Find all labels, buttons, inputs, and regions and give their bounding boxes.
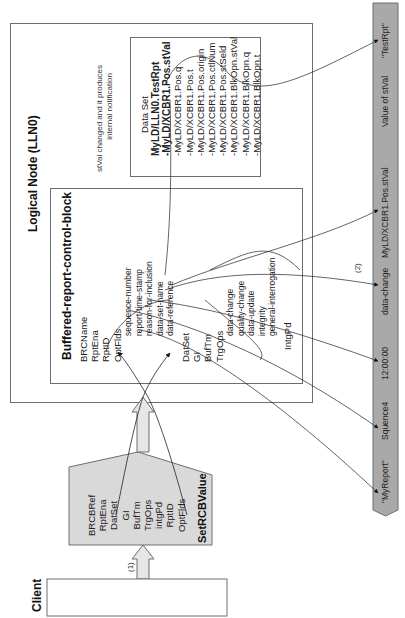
- logical-node-title: Logical Node (LLN0): [26, 115, 40, 232]
- brcb-field-trgops: TrgOps: [214, 331, 225, 362]
- brcb-field: RptID: [100, 317, 111, 362]
- trgops-item: data-update: [246, 258, 257, 336]
- data-set-member: -MyLD/XCBR1.Pos.stSeld: [217, 37, 228, 156]
- data-set-member: -MyLD/XCBR1.Pos.q: [172, 37, 183, 156]
- set-rcb-field: BRCBRef: [86, 495, 97, 536]
- trgops-items: data-change quality-change data-update i…: [225, 258, 278, 336]
- step-2-label: (2): [353, 263, 363, 273]
- data-set-member: -MyLD/XCBR1.BlkOpn.t: [251, 37, 262, 156]
- block-arrow-up-1: [132, 397, 154, 452]
- report-field-sequence: Squence4: [380, 402, 390, 440]
- optflds-item: data-set-name: [155, 261, 166, 336]
- trgops-item: quality-change: [236, 258, 247, 336]
- brcb-field: BufTm: [202, 331, 213, 362]
- brcb-fields: BRCName RptEna RptID OptFlds: [78, 317, 123, 362]
- data-set-member: -MyLD/XCBR1.BlkOpn.q: [240, 37, 251, 156]
- report-field-reason: data-change: [380, 268, 390, 315]
- report-field-timestamp: 12:00:00: [380, 347, 390, 380]
- set-rcb-field: RptEna: [97, 495, 108, 536]
- data-set-member: -MyLD/XCBR1.BlkOpn.stVal: [228, 37, 239, 156]
- set-rcb-field: TrgOps: [142, 495, 153, 536]
- step-1-label: (1): [126, 562, 136, 572]
- set-rcb-field: intgPd: [153, 495, 164, 536]
- client-box: [47, 579, 227, 616]
- brcb-field: GI: [191, 331, 202, 362]
- data-set-member: -MyLD/XCBR1.Pos.stVal: [161, 37, 172, 156]
- brcb-fields-mid: DatSet GI BufTm TrgOps: [180, 331, 225, 362]
- report-field-dataset-name: "TestRpt": [380, 23, 390, 58]
- data-set-title: Data Set: [139, 96, 150, 133]
- set-rcb-field: BufTm: [131, 495, 142, 536]
- brcb-field: DatSet: [180, 331, 191, 362]
- report-field-data-reference: MyLD/XCBR1.Pos.stVal: [380, 167, 390, 258]
- data-set-member: -MyLD/XCBR1.Pos.origin: [195, 37, 206, 156]
- notification-line-2: internal notification: [105, 65, 115, 172]
- report-field-value: Value of stVal: [380, 76, 390, 127]
- trgops-item: data-change: [225, 258, 236, 336]
- client-label: Client: [30, 579, 44, 612]
- brcb-field: BRCName: [78, 317, 89, 362]
- optflds-item: reason-for-inclusion: [144, 261, 155, 336]
- notification-line-1: stVal changed and it produces: [95, 65, 105, 172]
- trgops-item: integrity: [257, 258, 268, 336]
- notification-text: stVal changed and it produces internal n…: [95, 65, 115, 172]
- set-rcb-value-fields: BRCBRef RptEna DatSet GI BufTm TrgOps in…: [86, 495, 187, 536]
- brcb-field-optflds: OptFlds: [112, 317, 123, 362]
- optflds-item: report-time-stamp: [134, 261, 145, 336]
- optflds-items: sequence-number report-time-stamp reason…: [123, 261, 176, 336]
- optflds-item: sequence-number: [123, 261, 134, 336]
- set-rcb-field: RptID: [164, 495, 175, 536]
- brcb-title: Buffered-report-control-block: [60, 192, 74, 360]
- optflds-item: data-reference: [165, 261, 176, 336]
- brcb-field: RptEna: [89, 317, 100, 362]
- set-rcb-value-title: SetRCBValue: [196, 473, 208, 543]
- trgops-item: general-interrogation: [267, 258, 278, 336]
- set-rcb-field: DatSet: [108, 495, 119, 536]
- set-rcb-field: OptFlds: [176, 495, 187, 536]
- brcb-field-intgpd: IntgPd: [282, 323, 293, 350]
- set-rcb-field: GI: [120, 495, 131, 536]
- data-set-name: MyLD/LLN0.TestRpt: [150, 37, 161, 156]
- data-set-member: -MyLD/XCBR1.Pos.t: [184, 37, 195, 156]
- data-set-member: -MyLD/XCBR1.Pos.ctlNum: [206, 37, 217, 156]
- report-field-myreport: "MyReport": [380, 460, 390, 503]
- data-set-list: MyLD/LLN0.TestRpt -MyLD/XCBR1.Pos.stVal …: [150, 37, 262, 156]
